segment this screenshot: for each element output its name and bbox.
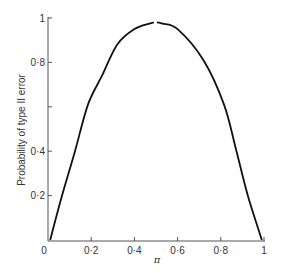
x-tick-label: 0·4 (127, 245, 142, 256)
curve-gap (154, 16, 157, 25)
y-tick-label: 0·4 (31, 146, 46, 157)
x-axis-title: π (153, 254, 161, 265)
x-tick-label: 0·6 (170, 245, 185, 256)
x-tick-label: 0·2 (84, 245, 99, 256)
y-axis-title: Probability of type II error (16, 73, 27, 185)
y-ticks: 0·20·40·81 (31, 13, 52, 202)
y-tick-label: 0·8 (31, 57, 46, 68)
plot-area (50, 16, 262, 240)
x-tick-label: 1 (261, 245, 267, 256)
origin-label: 0 (41, 245, 47, 256)
y-tick-label: 1 (39, 13, 45, 24)
error-curve (50, 22, 262, 240)
y-tick-label: 0·2 (31, 190, 46, 201)
x-ticks: 0·20·40·60·81 (84, 237, 267, 256)
type-ii-error-chart: 0·20·40·81 0·20·40·60·81 0 Probability o… (0, 0, 281, 273)
x-tick-label: 0·8 (214, 245, 229, 256)
